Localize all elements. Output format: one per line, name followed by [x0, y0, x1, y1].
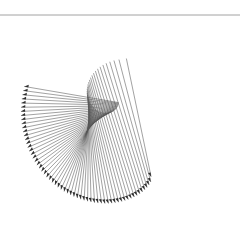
arrowhead-icon [25, 136, 29, 140]
arrowhead-icon [92, 198, 95, 202]
arrowhead-icon [21, 117, 25, 120]
arrowhead-icon [134, 191, 137, 195]
arrowhead-icon [39, 164, 43, 168]
segment-group [21, 59, 151, 204]
arrowhead-icon [85, 197, 88, 201]
arrowhead-icon [109, 199, 112, 203]
arrowhead-icon [122, 196, 125, 200]
arrowhead-icon [22, 125, 26, 128]
arrowhead-icon [21, 109, 25, 112]
spiral-segment [71, 107, 94, 195]
arrowhead-icon [33, 154, 37, 158]
spiral-segment [24, 86, 118, 102]
arrowhead-icon [37, 161, 41, 165]
arrowhead-icon [22, 121, 26, 124]
arrowhead-icon [22, 93, 26, 96]
spiral-segment [31, 112, 111, 155]
arrowhead-icon [112, 199, 115, 203]
arrowhead-icon [21, 113, 25, 116]
arrowhead-icon [76, 194, 79, 199]
arrowhead-icon [24, 85, 29, 88]
spiral-segment [106, 63, 145, 190]
arrowhead-icon [44, 170, 47, 175]
arrowhead-icon [26, 140, 30, 144]
arrowhead-icon [49, 175, 52, 180]
spiral-segment [29, 112, 111, 151]
arrowhead-icon [128, 194, 131, 198]
spiral-segment [103, 65, 143, 192]
spiral-segment [110, 62, 147, 188]
arrowhead-icon [99, 199, 102, 203]
arrowhead-icon [29, 147, 33, 151]
arrowhead-icon [69, 190, 72, 195]
arrowhead-icon [131, 193, 134, 197]
spiral-segment [28, 111, 113, 147]
arrowhead-icon [102, 199, 105, 203]
arrowhead-icon [31, 151, 35, 155]
arrowhead-icon [105, 199, 108, 203]
arrowhead-icon [79, 195, 82, 199]
arrowhead-icon [95, 199, 98, 203]
arrowhead-icon [23, 129, 27, 132]
arrowhead-icon [89, 198, 92, 202]
arrowhead-icon [46, 172, 49, 177]
arrowhead-icon [21, 105, 25, 108]
spiral-segment [114, 61, 149, 185]
arrowhead-icon [115, 198, 118, 202]
arrowhead-icon [119, 197, 122, 201]
arrowhead-icon [72, 192, 75, 197]
arrowhead-icon [139, 188, 142, 192]
spiral-segment [23, 109, 115, 131]
arrowhead-icon [52, 178, 55, 183]
spiral-figure [0, 0, 240, 244]
arrowhead-icon [35, 157, 39, 161]
spiral-segment [23, 91, 118, 104]
arrowhead-icon [136, 190, 139, 194]
spiral-segment [25, 111, 114, 140]
arrowhead-icon [141, 186, 144, 190]
spiral-segment [93, 73, 131, 198]
arrowhead-icon [125, 195, 128, 199]
arrowhead-icon [24, 133, 28, 136]
arrowhead-icon [41, 167, 44, 172]
